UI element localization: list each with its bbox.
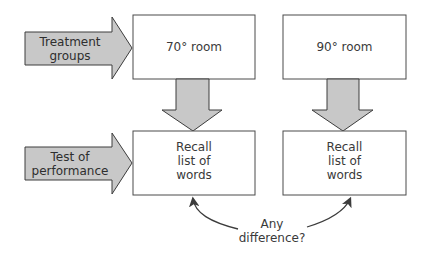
down-arrow-90 xyxy=(312,79,373,131)
outcome-70-line3: words xyxy=(133,168,255,182)
down-arrow-70 xyxy=(162,79,222,131)
outcome-70-line2: list of xyxy=(133,154,255,168)
test-of-performance-line1: Test of xyxy=(25,150,115,164)
treatment-groups-label: Treatment groups xyxy=(25,35,115,63)
test-of-performance-line2: performance xyxy=(25,164,115,178)
outcome-90-line2: list of xyxy=(283,154,406,168)
outcome-90-label: Recall list of words xyxy=(283,140,406,182)
test-of-performance-label: Test of performance xyxy=(25,150,115,178)
treatment-groups-line2: groups xyxy=(25,49,115,63)
comparison-line2: difference? xyxy=(222,231,322,245)
comparison-label: Any difference? xyxy=(222,217,322,245)
outcome-90-line1: Recall xyxy=(283,140,406,154)
outcome-70-label: Recall list of words xyxy=(133,140,255,182)
outcome-90-line3: words xyxy=(283,168,406,182)
condition-70-label: 70° room xyxy=(133,40,255,54)
treatment-groups-line1: Treatment xyxy=(25,35,115,49)
comparison-line1: Any xyxy=(222,217,322,231)
outcome-70-line1: Recall xyxy=(133,140,255,154)
condition-90-label: 90° room xyxy=(283,40,406,54)
